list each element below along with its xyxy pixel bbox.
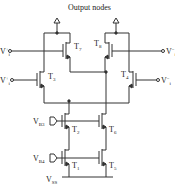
transistor-label-t8: T8 [94, 40, 101, 51]
output-nodes-label: Output nodes [68, 4, 111, 12]
supply-label-vss: VSS [46, 176, 57, 187]
transistor-label-t3: T3 [48, 73, 55, 84]
bias-label-vb3: VB3 [33, 118, 45, 129]
bias-label-vb4: VB4 [33, 155, 45, 166]
transistor-label-t1: T1 [72, 162, 79, 173]
input-label-vi-plus-top: V+i [0, 46, 10, 59]
output-node-right-icon [113, 18, 119, 34]
schematic-wires [0, 0, 175, 192]
transistor-label-t2: T2 [72, 126, 79, 137]
transistor-label-t6: T6 [109, 126, 116, 137]
circuit-diagram: Output nodes T7 T8 T3 T4 T2 T6 T1 T5 V+i… [0, 0, 175, 192]
input-label-vi-minus-bottom: V−i [161, 75, 171, 88]
transistor-label-t7: T7 [74, 43, 81, 54]
transistor-label-t4: T4 [121, 71, 128, 82]
output-node-left-icon [54, 18, 60, 34]
transistor-label-t5: T5 [109, 162, 116, 173]
input-label-vi-minus-top: V−i [166, 46, 175, 59]
input-label-vi-plus-bottom: V+i [0, 75, 10, 88]
